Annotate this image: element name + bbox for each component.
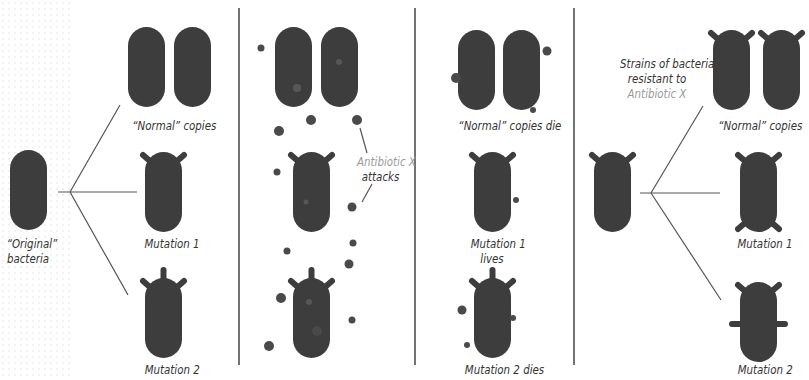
- resistant-normal-bacterium-icon: [711, 30, 752, 110]
- label-line: resistant to: [620, 71, 694, 86]
- normal-bacterium-icon: [275, 27, 312, 107]
- normal-copies-label: “Normal” copies: [718, 118, 793, 133]
- normal-copies-die-label: “Normal” copies die: [458, 118, 543, 133]
- dying-normal-bacterium-icon: [458, 30, 495, 110]
- label-line: Strains of bacteria: [620, 56, 694, 71]
- antibiotic-x-label: Antibiotic X: [357, 154, 403, 169]
- antibiotic-x-label: Antibiotic X: [620, 86, 694, 101]
- dying-mutation2-bacterium-icon: [472, 270, 513, 358]
- mutation2-bacterium-icon: [732, 282, 785, 362]
- normal-bacterium-icon: [321, 27, 358, 107]
- surviving-mutation1-bacterium-icon: [472, 152, 513, 232]
- mutation1-bacterium-icon: [291, 152, 332, 232]
- label-line: lives: [471, 251, 514, 266]
- attacks-label: attacks: [362, 169, 396, 184]
- dying-normal-bacterium-icon: [503, 30, 540, 110]
- mutation1-label: Mutation 1: [738, 236, 779, 251]
- normal-bacterium-icon: [128, 27, 165, 107]
- mutation2-label: Mutation 2: [145, 362, 188, 377]
- mutation2-dies-label: Mutation 2 dies: [465, 362, 527, 377]
- mutation2-bacterium-icon: [143, 270, 184, 358]
- normal-bacterium-icon: [174, 27, 211, 107]
- original-bacteria-label: “Original” bacteria: [7, 236, 50, 266]
- panel-antibiotic-attack: [258, 27, 373, 358]
- mutation1-bacterium-icon: [143, 152, 184, 232]
- resistant-strains-label: Strains of bacteria resistant to Antibio…: [620, 56, 694, 101]
- mutation1-bacterium-icon: [738, 152, 779, 232]
- normal-copies-label: “Normal” copies: [132, 118, 207, 133]
- label-line: Mutation 1: [471, 236, 514, 251]
- resistant-original-bacterium-icon: [592, 152, 633, 232]
- panel-selection: [451, 30, 552, 358]
- label-line: bacteria: [7, 251, 50, 266]
- panel-reproduction: [10, 27, 211, 358]
- original-bacterium-icon: [10, 150, 47, 230]
- label-line: “Original”: [7, 236, 50, 251]
- mutation2-bacterium-icon: [291, 270, 332, 358]
- mutation1-label: Mutation 1: [145, 236, 186, 251]
- mutation1-lives-label: Mutation 1 lives: [471, 236, 514, 266]
- resistant-normal-bacterium-icon: [761, 30, 802, 110]
- mutation2-label: Mutation 2: [738, 362, 781, 377]
